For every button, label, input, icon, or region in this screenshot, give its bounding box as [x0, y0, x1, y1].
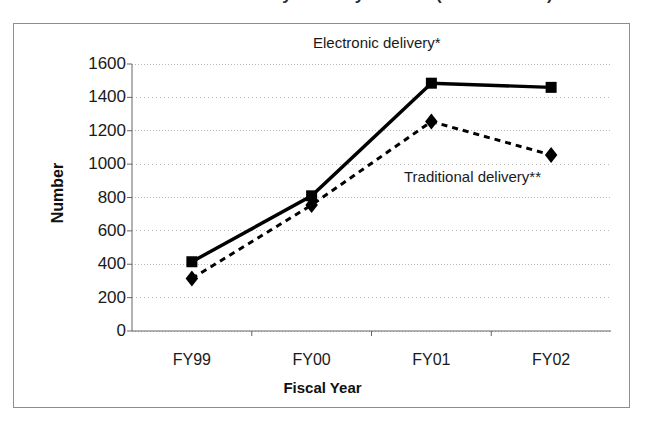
x-axis-tick-label: FY00 — [257, 351, 367, 369]
cut-off-page-title-text: Number of Orders by Delivery Method (FY1… — [118, 0, 548, 5]
x-axis-tick-label: FY01 — [376, 351, 486, 369]
x-axis-tick-label: FY02 — [496, 351, 606, 369]
chart-figure-frame: Number 02004006008001000120014001600 FY9… — [13, 23, 630, 408]
x-axis-title: Fiscal Year — [14, 379, 631, 396]
annotation-electronic-delivery: Electronic delivery* — [313, 34, 441, 51]
x-axis-tick-label: FY99 — [137, 351, 247, 369]
annotation-traditional-delivery: Traditional delivery** — [404, 168, 541, 185]
gridlines — [132, 64, 611, 331]
cut-off-page-title: Number of Orders by Delivery Method (FY1… — [0, 0, 646, 16]
